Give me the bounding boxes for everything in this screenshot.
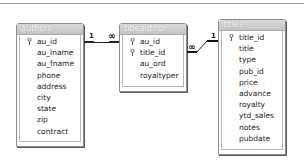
field-name: royaltyper (140, 71, 178, 80)
field-row[interactable]: title_id (222, 32, 282, 43)
primary-key-icon (130, 49, 135, 56)
cardinality-one-label: 1 (89, 33, 94, 40)
field-row[interactable]: ytd_sales (222, 110, 282, 121)
field-row[interactable]: au_id (123, 36, 183, 47)
field-row[interactable]: price (222, 77, 282, 88)
field-name: pubdate (239, 134, 270, 143)
field-row[interactable]: zip (20, 114, 80, 125)
field-name: zip (37, 115, 48, 124)
field-name: state (37, 104, 56, 113)
field-row[interactable]: pub_id (222, 66, 282, 77)
field-row[interactable]: phone (20, 70, 80, 81)
cardinality-many-label: ∞ (188, 44, 196, 51)
field-row[interactable]: advance (222, 88, 282, 99)
field-name: title_id (239, 33, 264, 42)
field-row[interactable]: au_id (20, 36, 80, 47)
cardinality-many-label: ∞ (108, 33, 116, 40)
primary-key-icon (229, 34, 234, 41)
field-name: royalty (239, 100, 265, 109)
field-row[interactable]: royaltyper (123, 70, 183, 81)
primary-key-icon (130, 38, 135, 45)
table-titleauthor[interactable]: titleauthor au_id title_id au_ord royalt… (119, 23, 187, 92)
field-row[interactable]: address (20, 81, 80, 92)
field-name: type (239, 55, 256, 64)
field-name: price (239, 78, 258, 87)
field-name: city (37, 93, 51, 102)
cardinality-one-label: 1 (211, 33, 216, 40)
table-title[interactable]: titleauthor (120, 24, 186, 35)
field-row[interactable]: au_lname (20, 47, 80, 58)
field-name: title (239, 44, 254, 53)
primary-key-icon (27, 38, 32, 45)
field-row[interactable]: title (222, 43, 282, 54)
field-name: phone (37, 71, 60, 80)
field-name: advance (239, 89, 271, 98)
field-row[interactable]: au_ord (123, 58, 183, 69)
field-name: title_id (140, 48, 165, 57)
field-row[interactable]: title_id (123, 47, 183, 58)
table-title[interactable]: authors (17, 24, 83, 35)
field-list: au_id au_lname au_fname phone address ci… (19, 35, 81, 142)
relationship-end-bar (84, 41, 94, 43)
field-name: notes (239, 123, 260, 132)
field-name: au_lname (37, 48, 73, 57)
table-title[interactable]: titles (219, 20, 285, 31)
field-name: ytd_sales (239, 111, 274, 120)
field-name: au_fname (37, 59, 74, 68)
table-titles[interactable]: titles title_id title type pub_id price … (218, 19, 286, 155)
field-row[interactable]: au_fname (20, 58, 80, 69)
field-name: contract (37, 127, 68, 136)
field-list: au_id title_id au_ord royaltyper (122, 35, 184, 87)
field-name: au_id (140, 37, 160, 46)
field-row[interactable]: pubdate (222, 133, 282, 144)
field-row[interactable]: contract (20, 126, 80, 137)
field-row[interactable]: city (20, 92, 80, 103)
field-row[interactable]: notes (222, 122, 282, 133)
field-name: address (37, 82, 66, 91)
field-name: au_ord (140, 59, 165, 68)
field-row[interactable]: royalty (222, 99, 282, 110)
field-name: au_id (37, 37, 57, 46)
field-row[interactable]: state (20, 103, 80, 114)
relationship-end-bar (109, 41, 119, 43)
table-authors[interactable]: authors au_id au_lname au_fname phone ad… (16, 23, 84, 147)
field-row[interactable]: type (222, 54, 282, 65)
field-name: pub_id (239, 67, 264, 76)
field-list: title_id title type pub_id price advance… (221, 31, 283, 150)
